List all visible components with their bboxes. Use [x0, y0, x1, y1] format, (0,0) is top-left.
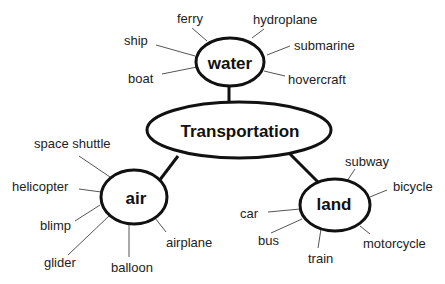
- item-label-blimp: blimp: [40, 218, 71, 233]
- item-label-boat: boat: [128, 71, 154, 86]
- spoke-ship: [156, 45, 195, 56]
- item-label-hydroplane: hydroplane: [253, 12, 317, 27]
- item-label-hovercraft: hovercraft: [288, 72, 346, 87]
- item-label-train: train: [308, 251, 333, 266]
- item-label-car: car: [240, 206, 259, 221]
- category-label-air: air: [126, 189, 147, 208]
- spoke-space-shuttle: [79, 156, 110, 177]
- spoke-boat: [162, 67, 197, 74]
- spoke-car: [268, 209, 300, 212]
- category-label-land: land: [317, 195, 352, 214]
- spoke-blimp: [75, 205, 100, 221]
- item-label-airplane: airplane: [166, 235, 212, 250]
- spoke-hovercraft: [264, 71, 285, 76]
- item-label-glider: glider: [44, 255, 76, 270]
- spoke-glider: [68, 216, 109, 255]
- category-label-water: water: [207, 54, 253, 73]
- spoke-hydroplane: [252, 29, 264, 38]
- item-label-space-shuttle: space shuttle: [34, 136, 111, 151]
- item-label-helicopter: helicopter: [12, 179, 69, 194]
- spoke-airplane: [155, 218, 166, 232]
- item-label-subway: subway: [345, 154, 390, 169]
- item-label-motorcycle: motorcycle: [363, 236, 426, 251]
- connector-land: [290, 154, 318, 182]
- spoke-train: [318, 229, 321, 248]
- item-label-bicycle: bicycle: [393, 179, 433, 194]
- spoke-bus: [271, 219, 302, 233]
- spoke-helicopter: [79, 189, 101, 192]
- connector-air: [159, 156, 178, 181]
- item-label-ferry: ferry: [177, 11, 204, 26]
- center-label: Transportation: [180, 122, 299, 141]
- item-label-balloon: balloon: [111, 260, 153, 275]
- item-label-ship: ship: [124, 33, 148, 48]
- item-label-bus: bus: [258, 233, 279, 248]
- spoke-submarine: [267, 46, 290, 55]
- spoke-bicycle: [370, 190, 387, 197]
- spoke-motorcycle: [360, 226, 370, 234]
- transportation-concept-map: Transportation water air land ferry hydr…: [0, 0, 445, 284]
- spoke-subway: [347, 169, 355, 181]
- concept-map-svg: Transportation water air land ferry hydr…: [0, 0, 445, 284]
- item-label-submarine: submarine: [294, 38, 355, 53]
- spoke-ferry: [192, 28, 207, 41]
